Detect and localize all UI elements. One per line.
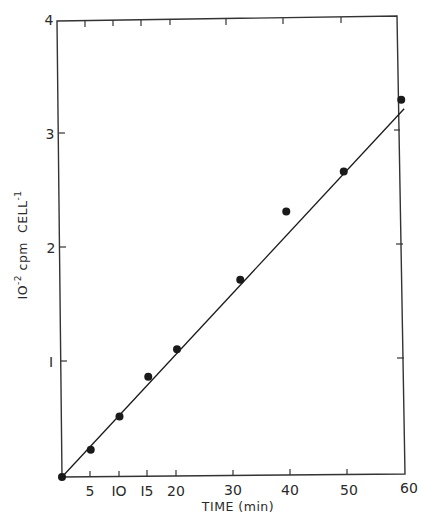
y-axis-title-exp1: -2: [13, 275, 23, 285]
chart: 5 IO I5 20 30 40 50 60 I 2 3 4 TIME (min…: [0, 0, 426, 524]
x-tick-label: I5: [140, 483, 153, 499]
svg-text:IO-2 cpm CELL-1: IO-2 cpm CELL-1: [13, 191, 30, 300]
x-tick-labels: 5 IO I5 20 30 40 50 60: [86, 480, 418, 499]
plot-frame: [57, 16, 405, 477]
fit-line: [62, 109, 404, 477]
y-tick-label: I: [49, 354, 53, 370]
x-tick-label: IO: [111, 483, 126, 499]
x-tick-label: 5: [86, 483, 95, 499]
y-axis-title-exp2: -1: [13, 191, 23, 201]
y-axis-title-mid: cpm CELL: [15, 201, 30, 275]
y-tick-label: 4: [45, 12, 54, 28]
data-point: [340, 167, 348, 175]
x-tick-label: 40: [281, 482, 299, 498]
y-tick-label: 2: [47, 240, 56, 256]
x-axis-title: TIME (min): [201, 499, 274, 514]
data-point: [236, 276, 244, 284]
data-point: [282, 207, 290, 215]
y-tick-labels: I 2 3 4: [45, 12, 56, 370]
x-tick-label: 50: [340, 482, 358, 498]
y-tick-label: 3: [46, 126, 55, 142]
data-point: [87, 446, 95, 454]
data-point: [116, 413, 124, 421]
y-axis-title-base: IO: [15, 285, 30, 300]
data-point: [397, 96, 405, 104]
data-point: [58, 473, 66, 481]
x-tick-label: 30: [224, 482, 242, 498]
fit-line-layer: [62, 109, 404, 477]
x-tick-label: 60: [400, 480, 418, 496]
y-axis-title: IO-2 cpm CELL-1: [13, 191, 30, 300]
x-tick-label: 20: [167, 483, 185, 499]
data-points-layer: [58, 96, 405, 481]
data-point: [173, 345, 181, 353]
data-point: [144, 373, 152, 381]
